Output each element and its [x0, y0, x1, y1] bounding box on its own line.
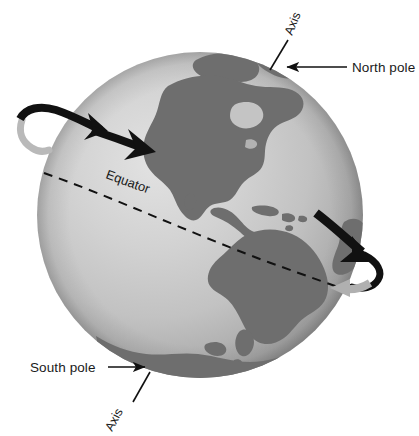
diagram-canvas: Equator North pole [0, 0, 419, 436]
axis-top-callout: Axis [270, 10, 304, 70]
axis-bottom-callout: Axis [102, 372, 150, 433]
axis-bottom-label: Axis [102, 406, 125, 433]
earth-rotation-diagram: Equator North pole [0, 0, 419, 436]
north-pole-callout: North pole [287, 60, 415, 75]
axis-top-leader-line [270, 40, 288, 70]
axis-top-label: Axis [282, 10, 304, 37]
rotation-arrow-top-tail [20, 120, 49, 151]
south-pole-callout: South pole [30, 360, 145, 375]
south-pole-label: South pole [30, 360, 96, 375]
north-pole-label: North pole [352, 60, 415, 75]
axis-bottom-leader-line [133, 372, 150, 402]
